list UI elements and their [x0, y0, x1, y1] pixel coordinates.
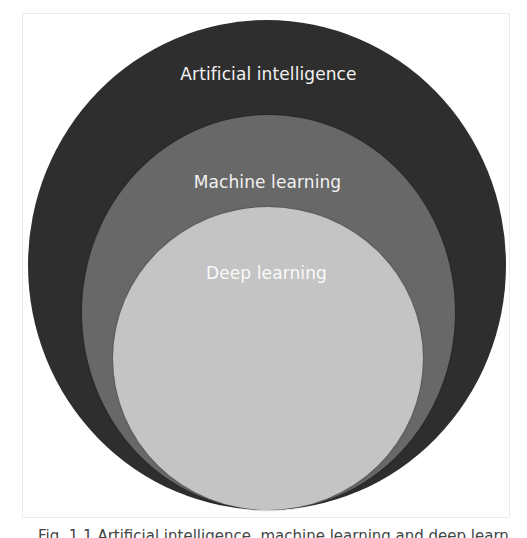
machine-learning-label: Machine learning: [4, 172, 527, 192]
deep-learning-label: Deep learning: [3, 263, 527, 283]
artificial-intelligence-label: Artificial intelligence: [5, 64, 527, 84]
deep-learning-circle: [113, 207, 423, 510]
figure-caption: Fig. 1.1 Artificial intelligence, machin…: [38, 525, 508, 538]
